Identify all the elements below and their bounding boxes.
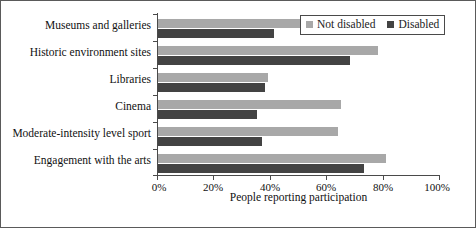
- legend-label: Not disabled: [317, 18, 375, 31]
- legend-label: Disabled: [398, 18, 439, 31]
- x-axis-tick: [326, 176, 327, 180]
- category-axis-labels: Museums and galleries Historic environme…: [1, 13, 151, 176]
- chart-legend: Not disabled Disabled: [300, 15, 445, 35]
- bar-not-disabled[interactable]: [158, 100, 341, 109]
- bar-not-disabled[interactable]: [158, 46, 378, 55]
- category-label: Engagement with the arts: [34, 154, 151, 166]
- category-label: Cinema: [115, 100, 151, 112]
- y-axis-tick: [153, 41, 157, 42]
- legend-swatch-icon: [387, 21, 394, 28]
- category-label: Historic environment sites: [30, 46, 151, 58]
- legend-swatch-icon: [306, 21, 313, 28]
- bar-not-disabled[interactable]: [158, 19, 305, 28]
- bar-not-disabled[interactable]: [158, 73, 268, 82]
- bar-disabled[interactable]: [158, 56, 350, 65]
- chart-figure: Museums and galleries Historic environme…: [0, 0, 476, 228]
- bar-disabled[interactable]: [158, 83, 265, 92]
- bar-not-disabled[interactable]: [158, 154, 386, 163]
- bar-disabled[interactable]: [158, 164, 364, 173]
- category-label: Museums and galleries: [45, 19, 151, 31]
- x-axis-tick: [383, 176, 384, 180]
- y-axis-tick: [153, 95, 157, 96]
- x-axis-tick: [213, 176, 214, 180]
- x-axis-tick: [439, 176, 440, 180]
- category-label: Libraries: [109, 73, 151, 85]
- y-axis-tick: [153, 14, 157, 15]
- x-axis-tick: [270, 176, 271, 180]
- x-axis-line: [157, 175, 440, 176]
- legend-entry-not-disabled[interactable]: Not disabled: [306, 18, 375, 31]
- x-axis-tick: [157, 176, 158, 180]
- y-axis-tick: [153, 149, 157, 150]
- plot-area: 0% 20% 40% 60% 80% 100%: [157, 13, 440, 176]
- legend-entry-disabled[interactable]: Disabled: [387, 18, 439, 31]
- bar-not-disabled[interactable]: [158, 127, 338, 136]
- y-axis-tick: [153, 122, 157, 123]
- x-axis-title: People reporting participation: [157, 191, 440, 203]
- bar-disabled[interactable]: [158, 137, 262, 146]
- bar-disabled[interactable]: [158, 110, 257, 119]
- bar-disabled[interactable]: [158, 29, 274, 38]
- category-label: Moderate-intensity level sport: [12, 127, 151, 139]
- y-axis-tick: [153, 68, 157, 69]
